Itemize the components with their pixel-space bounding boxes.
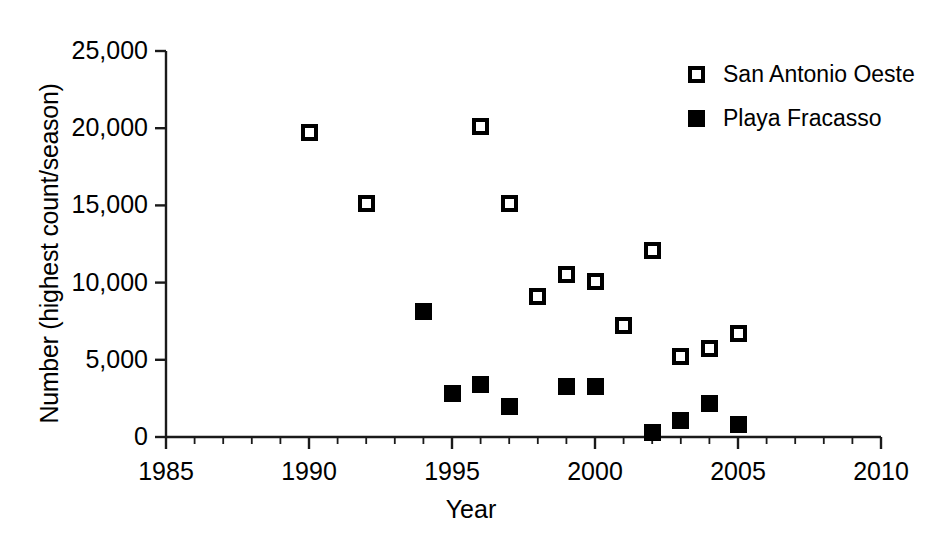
- x-axis-title: Year: [0, 495, 942, 524]
- legend-item-san-antonio-oeste: San Antonio Oeste: [688, 52, 938, 96]
- scatter-chart-figure: Number (highest count/season) Year 05,00…: [0, 0, 942, 541]
- x-axis-tick-label: 2005: [688, 459, 788, 484]
- data-point-marker: [558, 266, 575, 283]
- data-point-marker: [701, 340, 718, 357]
- data-point-marker: [501, 195, 518, 212]
- data-point-marker: [730, 325, 747, 342]
- legend-label-series-0: San Antonio Oeste: [723, 61, 915, 88]
- data-point-marker: [701, 395, 718, 412]
- y-axis-tick-label: 15,000: [0, 192, 148, 217]
- data-point-marker: [558, 378, 575, 395]
- data-point-marker: [472, 118, 489, 135]
- x-axis-tick-label: 1995: [402, 459, 502, 484]
- y-axis-tick-label: 5,000: [0, 347, 148, 372]
- x-axis-tick-label: 1985: [116, 459, 216, 484]
- y-axis-tick-label: 0: [0, 424, 148, 449]
- x-axis-major-ticks: [166, 437, 881, 449]
- data-point-marker: [501, 398, 518, 415]
- data-point-marker: [587, 378, 604, 395]
- filled-square-marker-icon: [688, 110, 705, 127]
- y-axis-ticks: [155, 51, 166, 437]
- data-point-marker: [358, 195, 375, 212]
- data-point-marker: [672, 348, 689, 365]
- data-point-marker: [472, 376, 489, 393]
- data-point-marker: [587, 273, 604, 290]
- y-axis-title: Number (highest count/season): [35, 54, 64, 454]
- data-point-marker: [644, 424, 661, 441]
- x-axis-tick-label: 1990: [259, 459, 359, 484]
- y-axis-tick-label: 25,000: [0, 38, 148, 63]
- data-point-marker: [672, 412, 689, 429]
- legend-label-series-1: Playa Fracasso: [723, 105, 882, 132]
- data-point-marker: [415, 303, 432, 320]
- data-point-marker: [615, 317, 632, 334]
- chart-legend: San Antonio Oeste Playa Fracasso: [688, 52, 938, 140]
- y-axis-tick-label: 10,000: [0, 270, 148, 295]
- open-square-marker-icon: [688, 66, 705, 83]
- data-point-marker: [730, 416, 747, 433]
- x-axis-tick-label: 2010: [831, 459, 931, 484]
- y-axis-tick-label: 20,000: [0, 115, 148, 140]
- x-axis-tick-label: 2000: [545, 459, 645, 484]
- legend-item-playa-fracasso: Playa Fracasso: [688, 96, 938, 140]
- data-point-marker: [444, 385, 461, 402]
- data-point-marker: [301, 124, 318, 141]
- data-point-marker: [529, 288, 546, 305]
- data-point-marker: [644, 242, 661, 259]
